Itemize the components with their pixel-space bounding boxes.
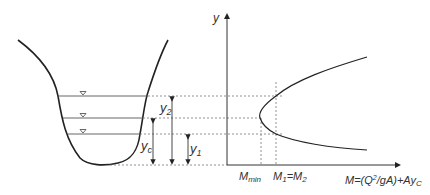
- tick-m1-m2: M1=M2: [273, 170, 307, 184]
- label-y1: y1: [189, 141, 202, 158]
- x-axis-label: M=(Q2/gA)+AyC: [345, 174, 422, 188]
- y-axis-label: y: [212, 11, 220, 25]
- water-surface-icon: [80, 92, 86, 96]
- label-yc: yc: [140, 138, 153, 155]
- specific-force-diagram: y2 yc y1 y Mmin M1=M2 M=(Q2/gA)+AyC: [0, 0, 430, 195]
- tick-mmin: Mmin: [239, 170, 262, 184]
- label-y2: y2: [159, 100, 172, 117]
- water-surface-icon: [80, 130, 86, 134]
- water-surface-icon: [80, 114, 86, 118]
